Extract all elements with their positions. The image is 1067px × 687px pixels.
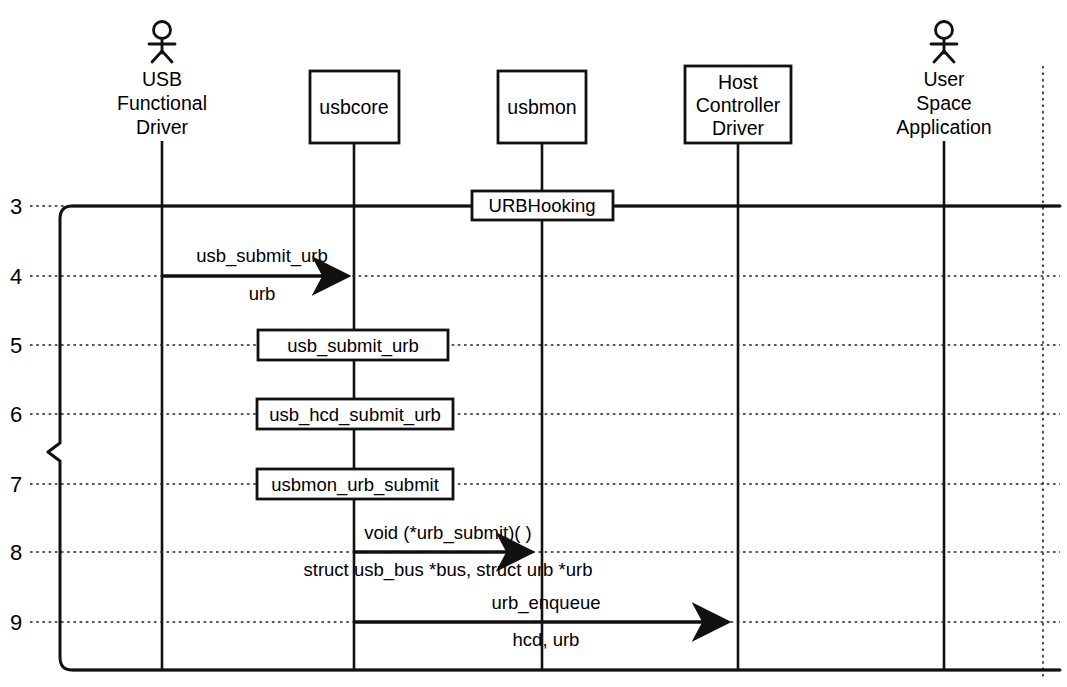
participant-label-line-2: Space [916, 92, 971, 114]
row-number-8: 8 [10, 540, 22, 565]
message-7-usbmon-urb-submit-box: usbmon_urb_submit [257, 469, 453, 499]
participant-label-line-1: USB [142, 68, 182, 90]
row-number-3: 3 [10, 194, 22, 219]
message-6-label: usb_hcd_submit_urb [269, 404, 441, 426]
message-4-below-label: urb [249, 283, 276, 304]
entity-label-usbcore: usbcore [319, 96, 388, 118]
entity-label-hcd-line-1: Host [718, 71, 759, 93]
actor-stick-figure-icon [149, 22, 175, 63]
participant-label-line-3: Driver [136, 116, 189, 138]
message-5-label: usb_submit_urb [287, 335, 419, 357]
sequence-diagram: USB Functional Driver usbcore usbmon Hos… [0, 0, 1067, 687]
participant-usbcore: usbcore [310, 71, 399, 670]
message-8-below-label: struct usb_bus *bus, struct urb *urb [304, 559, 593, 581]
participant-label-line-1: User [923, 68, 965, 90]
participant-usbmon: usbmon [498, 71, 586, 670]
entity-label-hcd-line-3: Driver [712, 117, 765, 139]
message-4-usb-submit-urb: usb_submit_urb urb [162, 245, 348, 304]
message-9-below-label: hcd, urb [513, 629, 580, 650]
row-number-6: 6 [10, 402, 22, 427]
message-8-above-label: void (*urb_submit)( ) [364, 522, 532, 544]
message-9-urb-enqueue: urb_enqueue hcd, urb [354, 592, 728, 650]
entity-label-usbmon: usbmon [507, 96, 576, 118]
row-number-7: 7 [10, 472, 22, 497]
entity-label-hcd-line-2: Controller [696, 94, 781, 116]
participant-label-line-2: Functional [117, 92, 207, 114]
participant-label-line-3: Application [896, 116, 991, 138]
message-4-above-label: usb_submit_urb [196, 245, 328, 267]
message-7-label: usbmon_urb_submit [271, 474, 439, 496]
message-6-usb-hcd-submit-urb-box: usb_hcd_submit_urb [257, 399, 453, 429]
row-number-9: 9 [10, 610, 22, 635]
message-5-usb-submit-urb-box: usb_submit_urb [258, 330, 448, 360]
participant-host-controller-driver: Host Controller Driver [685, 66, 791, 670]
sequence-diagram-canvas: USB Functional Driver usbcore usbmon Hos… [0, 0, 1067, 687]
stereotype-box-urbhooking: URBHooking [472, 191, 613, 220]
message-9-above-label: urb_enqueue [491, 592, 600, 614]
row-number-5: 5 [10, 333, 22, 358]
stereotype-box-label: URBHooking [489, 195, 596, 216]
row-number-4: 4 [10, 264, 22, 289]
actor-stick-figure-icon [931, 22, 957, 63]
